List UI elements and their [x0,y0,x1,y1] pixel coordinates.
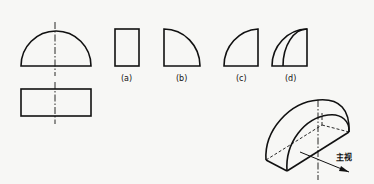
option-d-label: (d) [285,74,296,83]
option-b-label: (b) [176,74,187,83]
option-a[interactable]: (a) [115,29,139,83]
projection-diagram: (a) (b) (c) (d) 主视 [0,0,374,184]
option-c[interactable]: (c) [224,29,258,83]
option-b[interactable]: (b) [164,29,200,83]
option-a-label: (a) [121,74,132,83]
view-direction-label: 主视 [336,152,352,162]
arrow-icon [339,166,349,172]
option-c-label: (c) [236,74,247,83]
front-view-semicircle [21,22,91,76]
option-d[interactable]: (d) [272,29,307,83]
isometric-half-cylinder: 主视 [266,100,352,180]
top-view-rectangle [21,82,91,124]
